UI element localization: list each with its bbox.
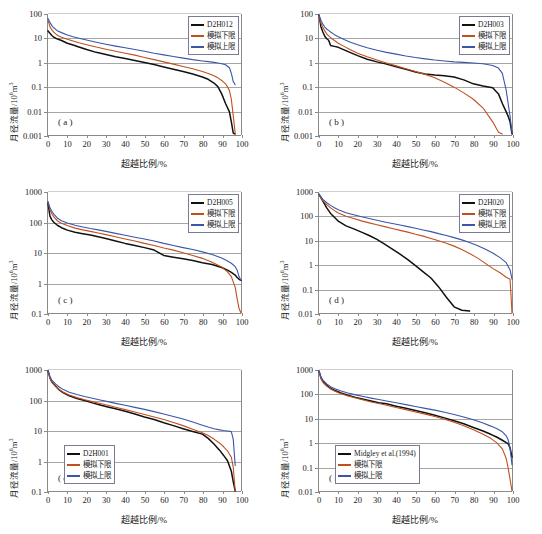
x-tick-label: 50	[412, 317, 421, 327]
x-tick-label: 90	[489, 317, 498, 327]
legend: D2H005模拟下限模拟上限	[188, 194, 239, 233]
x-tick-label: 80	[199, 139, 208, 149]
x-tick-label: 80	[199, 495, 208, 505]
x-tick-label: 100	[507, 317, 520, 327]
legend: D2H012模拟下限模拟上限	[188, 16, 239, 55]
tick-x	[87, 491, 88, 494]
tick-x	[494, 135, 495, 138]
x-tick-label: 60	[160, 139, 169, 149]
y-tick-label: 1000	[25, 365, 42, 375]
legend-row: Midgley et al.(1994)	[338, 448, 416, 459]
tick-x	[145, 313, 146, 316]
legend-swatch-lower	[191, 35, 204, 37]
plot-area: 1001010.10.010.0010102030405060708090100…	[318, 14, 512, 136]
x-tick-label: 60	[160, 317, 169, 327]
series-line	[319, 194, 470, 311]
y-tick-label: 10	[305, 33, 314, 43]
panel-b: 月径流量/106m31001010.10.010.001010203040506…	[271, 0, 542, 178]
x-tick-label: 100	[507, 495, 520, 505]
legend-swatch-observed	[338, 453, 351, 455]
legend: D2H003模拟下限模拟上限	[459, 16, 510, 55]
x-tick-label: 10	[63, 495, 72, 505]
x-tick-label: 0	[317, 317, 321, 327]
x-tick-label: 30	[102, 495, 111, 505]
tick-x	[145, 135, 146, 138]
legend: Midgley et al.(1994)模拟下限模拟上限	[335, 445, 420, 484]
tick-x	[67, 491, 68, 494]
x-tick-label: 20	[354, 317, 363, 327]
legend-label: 模拟上限	[83, 470, 111, 481]
plot-frame-right	[241, 14, 242, 135]
tick-x	[126, 135, 127, 138]
legend-label: D2H001	[83, 448, 109, 459]
y-tick-label: 1000	[296, 187, 313, 197]
x-tick-label: 50	[141, 317, 150, 327]
y-tick-label: 0.01	[27, 107, 42, 117]
tick-x	[242, 313, 243, 316]
y-tick-label: 100	[29, 396, 42, 406]
y-tick-label: 1	[309, 260, 313, 270]
legend-label: 模拟上限	[354, 470, 382, 481]
legend-row: 模拟上限	[338, 470, 416, 481]
x-tick-label: 40	[121, 495, 130, 505]
tick-x	[397, 135, 398, 138]
legend-row: D2H020	[462, 197, 506, 208]
legend-swatch-lower	[462, 213, 475, 215]
legend-row: D2H005	[191, 197, 235, 208]
x-tick-label: 60	[160, 495, 169, 505]
x-tick-label: 20	[354, 139, 363, 149]
x-tick-label: 0	[317, 495, 321, 505]
x-tick-label: 20	[83, 139, 92, 149]
panel-d: 月径流量/106m310001001010.10.010102030405060…	[271, 178, 542, 356]
x-tick-label: 60	[431, 495, 440, 505]
tick-x	[494, 313, 495, 316]
x-tick-label: 50	[412, 495, 421, 505]
x-tick-label: 100	[236, 139, 249, 149]
tick-x	[377, 491, 378, 494]
legend-row: 模拟上限	[67, 470, 111, 481]
legend-row: D2H012	[191, 19, 235, 30]
y-tick-label: 0.001	[23, 131, 42, 141]
tick-x	[416, 313, 417, 316]
plot-frame-right	[241, 192, 242, 313]
y-tick-label: 1000	[296, 365, 313, 375]
legend-row: 模拟下限	[191, 30, 235, 41]
x-tick-label: 30	[373, 317, 382, 327]
legend-row: 模拟下限	[462, 208, 506, 219]
panel-f: 月径流量/106m310001001010.10.010102030405060…	[271, 356, 542, 534]
x-tick-label: 30	[373, 139, 382, 149]
panel-label: ( b )	[329, 117, 344, 127]
x-tick-label: 40	[392, 495, 401, 505]
x-tick-label: 30	[373, 495, 382, 505]
x-tick-label: 20	[354, 495, 363, 505]
tick-x	[223, 313, 224, 316]
tick-x	[48, 135, 49, 138]
x-tick-label: 30	[102, 317, 111, 327]
panel-label: ( c )	[58, 295, 73, 305]
tick-x	[203, 313, 204, 316]
legend-row: D2H001	[67, 448, 111, 459]
x-tick-label: 70	[451, 139, 460, 149]
legend-label: D2H012	[207, 19, 233, 30]
legend-label: 模拟下限	[207, 30, 235, 41]
tick-x	[184, 135, 185, 138]
plot-area: 10001001010.10.010102030405060708090100D…	[318, 192, 512, 314]
legend-label: D2H003	[478, 19, 504, 30]
y-tick-label: 0.1	[31, 82, 42, 92]
y-tick-label: 100	[300, 211, 313, 221]
x-tick-label: 80	[199, 317, 208, 327]
x-axis-title: 超越比例/%	[47, 513, 241, 526]
tick-x	[397, 491, 398, 494]
y-tick-label: 1	[38, 279, 42, 289]
legend-swatch-observed	[67, 453, 80, 455]
y-tick-label: 100	[300, 9, 313, 19]
tick-x	[106, 491, 107, 494]
legend-row: 模拟下限	[191, 208, 235, 219]
x-tick-label: 90	[218, 495, 227, 505]
panel-a: 月径流量/106m31001010.10.010.001010203040506…	[0, 0, 271, 178]
x-tick-label: 20	[83, 495, 92, 505]
y-tick-label: 10	[34, 426, 43, 436]
legend-label: D2H020	[478, 197, 504, 208]
tick-x	[513, 135, 514, 138]
tick-x	[319, 135, 320, 138]
